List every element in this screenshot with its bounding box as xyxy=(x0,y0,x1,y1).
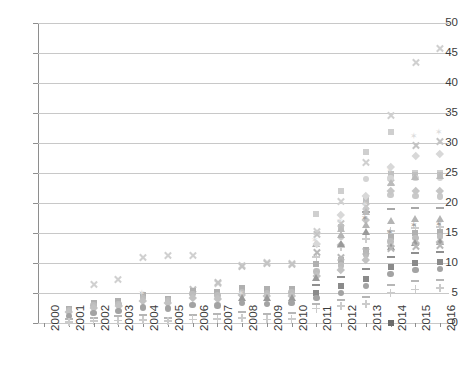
data-point xyxy=(362,268,370,270)
x-tick-mark xyxy=(118,323,119,327)
data-point xyxy=(388,234,394,240)
data-point xyxy=(287,259,296,268)
data-point: ✶ xyxy=(410,132,418,141)
plot-area: ✶✶✶✶✶✶✶✶✶✶✶✶ xyxy=(38,23,449,323)
data-point xyxy=(288,312,296,314)
data-point: ✶ xyxy=(336,217,344,226)
data-point xyxy=(411,58,420,67)
data-point xyxy=(363,276,369,282)
data-point xyxy=(411,242,420,251)
x-tick-mark xyxy=(168,323,169,327)
data-point xyxy=(238,294,246,301)
data-point xyxy=(238,262,247,271)
data-point xyxy=(412,175,419,182)
data-point xyxy=(188,251,197,260)
data-point xyxy=(338,290,345,297)
x-tick-mark xyxy=(366,323,367,327)
data-point xyxy=(412,170,418,176)
data-point: ✶ xyxy=(311,236,319,245)
data-point xyxy=(337,302,345,310)
data-point xyxy=(115,298,121,304)
data-point xyxy=(386,244,395,253)
data-point xyxy=(213,279,222,288)
data-point xyxy=(362,235,370,243)
data-point xyxy=(264,286,270,292)
data-point: ✶ xyxy=(435,128,443,137)
data-point xyxy=(165,297,172,304)
x-tick-mark xyxy=(267,323,268,327)
data-point xyxy=(388,171,394,177)
data-point xyxy=(313,261,319,267)
data-point xyxy=(189,291,196,298)
x-tick-mark xyxy=(143,323,144,327)
data-point xyxy=(411,280,419,282)
data-point xyxy=(312,303,320,305)
data-point xyxy=(238,311,246,313)
data-point xyxy=(189,302,196,309)
data-point xyxy=(337,241,345,249)
data-point xyxy=(337,299,345,301)
data-point xyxy=(312,305,320,313)
data-point xyxy=(288,289,295,296)
data-point xyxy=(362,211,370,213)
data-point xyxy=(387,179,395,186)
data-point xyxy=(263,292,271,300)
data-point xyxy=(214,302,221,309)
data-point xyxy=(387,243,395,250)
data-point xyxy=(437,170,443,176)
data-point xyxy=(263,315,271,323)
data-point xyxy=(140,292,146,298)
data-point: ✶ xyxy=(361,214,369,223)
data-point xyxy=(165,305,172,312)
data-point xyxy=(114,275,123,284)
data-point: ✶ xyxy=(386,228,394,237)
x-tick-mark xyxy=(94,323,95,327)
data-point xyxy=(411,252,419,254)
data-point xyxy=(338,224,344,230)
data-point xyxy=(436,284,444,292)
data-point xyxy=(436,187,444,195)
data-point xyxy=(386,178,395,187)
data-point xyxy=(411,215,419,222)
data-point xyxy=(411,285,419,293)
data-point xyxy=(337,197,346,206)
data-point xyxy=(91,300,97,306)
data-point xyxy=(338,257,344,263)
data-point xyxy=(387,284,395,286)
data-point xyxy=(213,278,222,287)
data-point xyxy=(338,234,345,241)
x-tick-mark xyxy=(415,323,416,327)
x-tick-mark xyxy=(217,323,218,327)
data-point xyxy=(114,315,122,317)
data-point xyxy=(387,227,395,235)
data-point xyxy=(362,216,370,224)
data-point xyxy=(189,294,197,302)
data-point xyxy=(388,129,394,135)
data-point xyxy=(337,219,346,228)
data-point xyxy=(412,267,419,274)
data-point xyxy=(114,302,122,310)
data-point xyxy=(239,300,246,307)
data-point xyxy=(387,208,395,210)
data-point xyxy=(337,211,345,219)
data-point xyxy=(312,240,320,248)
data-point xyxy=(412,230,418,236)
data-point xyxy=(238,291,246,299)
data-point xyxy=(437,193,444,200)
data-point xyxy=(288,300,295,307)
x-tick-mark xyxy=(316,323,317,327)
data-point xyxy=(437,259,443,265)
data-point xyxy=(362,208,370,215)
data-point xyxy=(66,307,73,314)
data-point xyxy=(65,318,73,320)
data-point xyxy=(387,217,395,224)
data-point xyxy=(337,276,345,278)
data-point xyxy=(312,274,320,281)
data-point xyxy=(387,175,394,182)
data-point xyxy=(436,137,445,146)
data-point xyxy=(411,239,419,247)
x-tick-mark xyxy=(193,323,194,327)
data-point xyxy=(239,285,245,291)
data-point xyxy=(264,301,271,308)
data-point xyxy=(89,280,98,289)
